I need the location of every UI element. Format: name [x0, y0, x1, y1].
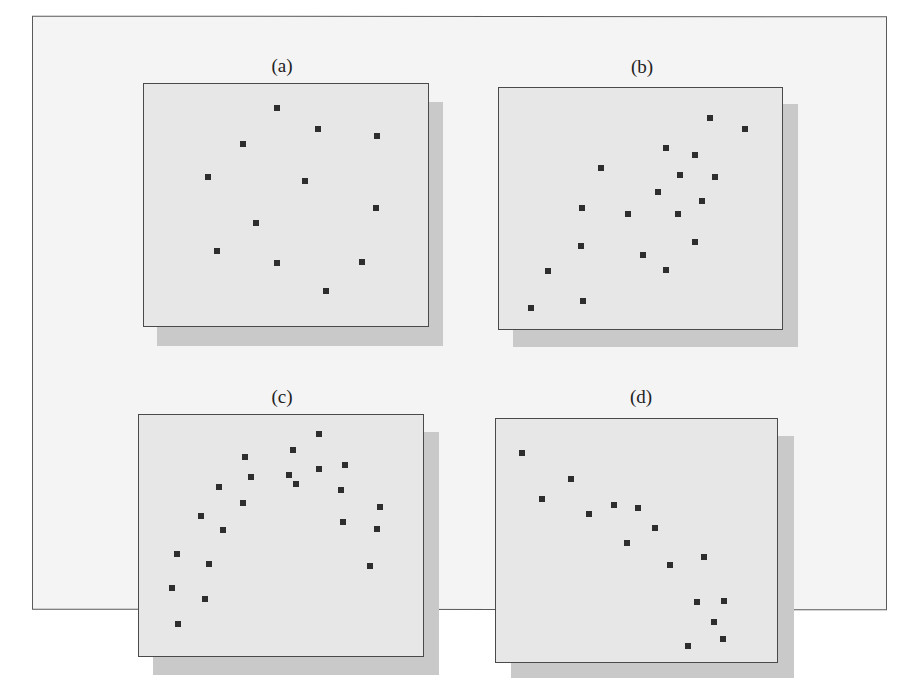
data-point — [293, 481, 299, 487]
data-point — [685, 643, 691, 649]
data-point — [377, 504, 383, 510]
data-point — [169, 585, 175, 591]
data-point — [290, 447, 296, 453]
data-point — [174, 551, 180, 557]
data-point — [692, 239, 698, 245]
data-point — [316, 466, 322, 472]
data-point — [338, 487, 344, 493]
data-point — [667, 562, 673, 568]
data-point — [240, 141, 246, 147]
data-point — [720, 636, 726, 642]
data-point — [240, 500, 246, 506]
data-point — [198, 513, 204, 519]
data-point — [545, 268, 551, 274]
data-point — [274, 260, 280, 266]
data-point — [692, 152, 698, 158]
plot-area-b — [498, 87, 783, 330]
data-point — [675, 211, 681, 217]
data-point — [677, 172, 683, 178]
data-point — [580, 298, 586, 304]
data-point — [242, 454, 248, 460]
data-point — [316, 431, 322, 437]
data-point — [611, 502, 617, 508]
data-point — [707, 115, 713, 121]
data-point — [624, 540, 630, 546]
plot-area-c — [138, 414, 424, 657]
panel-label-c: (c) — [252, 387, 312, 406]
data-point — [578, 243, 584, 249]
panel-label-d: (d) — [611, 387, 671, 406]
data-point — [699, 198, 705, 204]
data-point — [342, 462, 348, 468]
data-point — [374, 133, 380, 139]
data-point — [286, 472, 292, 478]
panel-label-a: (a) — [252, 56, 312, 75]
data-point — [253, 220, 259, 226]
data-point — [712, 174, 718, 180]
data-point — [663, 145, 669, 151]
data-point — [598, 165, 604, 171]
data-point — [519, 450, 525, 456]
data-point — [248, 474, 254, 480]
data-point — [274, 105, 280, 111]
data-point — [701, 554, 707, 560]
data-point — [579, 205, 585, 211]
data-point — [655, 189, 661, 195]
data-point — [323, 288, 329, 294]
data-point — [711, 619, 717, 625]
data-point — [539, 496, 545, 502]
data-point — [586, 511, 592, 517]
data-point — [367, 563, 373, 569]
data-point — [202, 596, 208, 602]
data-point — [742, 126, 748, 132]
plot-area-d — [495, 418, 778, 663]
data-point — [625, 211, 631, 217]
data-point — [216, 484, 222, 490]
data-point — [568, 476, 574, 482]
data-point — [373, 205, 379, 211]
data-point — [374, 526, 380, 532]
data-point — [175, 621, 181, 627]
data-point — [528, 305, 534, 311]
data-point — [721, 598, 727, 604]
data-point — [635, 505, 641, 511]
data-point — [206, 561, 212, 567]
plot-area-a — [143, 83, 429, 327]
panel-label-b: (b) — [612, 57, 672, 76]
data-point — [214, 248, 220, 254]
data-point — [205, 174, 211, 180]
data-point — [359, 259, 365, 265]
data-point — [315, 126, 321, 132]
data-point — [652, 525, 658, 531]
data-point — [302, 178, 308, 184]
data-point — [220, 527, 226, 533]
data-point — [663, 267, 669, 273]
data-point — [640, 252, 646, 258]
data-point — [694, 599, 700, 605]
data-point — [340, 519, 346, 525]
